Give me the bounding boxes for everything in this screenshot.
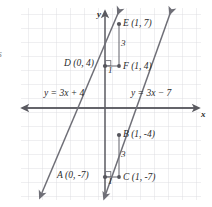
point-label-c: C (1, -7) — [123, 172, 155, 182]
point-label-f: F (1, 4) — [123, 61, 152, 71]
point-label-b: B (1, -4) — [123, 129, 155, 139]
point-label-e: E (1, 7) — [123, 18, 152, 28]
rise-label-upper: 3 — [121, 38, 126, 48]
run-label-lower: 1 — [108, 176, 113, 186]
run-label-upper: 1 — [108, 65, 113, 75]
equation-label-left: y = 3x + 4 — [44, 88, 84, 98]
point-label-a: A (0, -7) — [57, 170, 89, 180]
rise-label-lower: 3 — [121, 149, 126, 159]
x-axis-label: x — [201, 109, 206, 119]
point-a — [103, 175, 107, 179]
point-d — [103, 64, 107, 68]
y-axis-label: y — [97, 9, 101, 19]
equation-label-right: y = 3x − 7 — [131, 88, 171, 98]
point-c — [117, 175, 121, 179]
point-b — [117, 133, 121, 137]
graph-canvas — [0, 0, 212, 207]
point-f — [117, 64, 121, 68]
point-label-d: D (0, 4) — [64, 58, 94, 68]
coordinate-graph-figure: s — [0, 0, 212, 207]
point-e — [117, 22, 121, 26]
